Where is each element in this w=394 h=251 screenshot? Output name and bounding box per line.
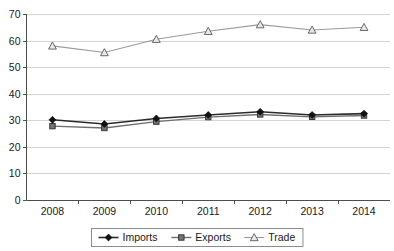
y-tick-label-40: 40 xyxy=(9,88,21,100)
legend-label-imports: Imports xyxy=(123,231,158,243)
x-tick-label-2008: 2008 xyxy=(41,205,65,217)
x-tick-label-2013: 2013 xyxy=(300,205,324,217)
datapoint-exports-2008 xyxy=(50,123,55,128)
x-tick-label-2010: 2010 xyxy=(145,205,169,217)
y-tick-label-50: 50 xyxy=(9,61,21,73)
y-tick-label-20: 20 xyxy=(9,141,21,153)
chart-legend: ImportsExportsTrade xyxy=(92,229,303,247)
y-tick-label-0: 0 xyxy=(15,194,21,206)
x-tick-label-2012: 2012 xyxy=(248,205,272,217)
legend-label-exports: Exports xyxy=(195,231,231,243)
chart-canvas: 010203040506070 200820092010201120122013… xyxy=(0,0,394,251)
x-tick-label-2011: 2011 xyxy=(197,205,220,217)
legend-label-trade: Trade xyxy=(268,231,295,243)
y-tick-label-10: 10 xyxy=(9,167,21,179)
x-tick-label-2009: 2009 xyxy=(93,205,117,217)
legend-marker-square-icon xyxy=(179,235,184,240)
x-tick-label-2014: 2014 xyxy=(352,205,376,217)
y-tick-label-30: 30 xyxy=(9,114,21,126)
y-tick-label-60: 60 xyxy=(9,35,21,47)
y-tick-label-70: 70 xyxy=(9,8,21,20)
line-chart: 010203040506070 200820092010201120122013… xyxy=(0,0,394,251)
